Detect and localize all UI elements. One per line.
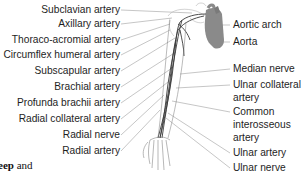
label-ulnar-artery: Ulnar artery xyxy=(233,147,286,159)
label-median-nerve: Median nerve xyxy=(233,63,295,75)
label-profunda-brachii-artery: Profunda brachii artery xyxy=(17,97,120,109)
heart-aortic-arch xyxy=(205,5,224,49)
label-radial-nerve: Radial nerve xyxy=(63,129,120,141)
body-text-fragment: eep and xyxy=(0,159,33,171)
shoulder-outline xyxy=(168,3,206,36)
label-ulnar-collateral-artery-line1: Ulnar collateral xyxy=(233,79,301,91)
label-radial-collateral-artery: Radial collateral artery xyxy=(19,113,120,125)
label-radial-artery: Radial artery xyxy=(62,145,120,157)
hand xyxy=(143,137,170,170)
label-ulnar-nerve: Ulnar nerve xyxy=(233,162,286,172)
label-axillary-artery: Axillary artery xyxy=(58,18,120,30)
label-brachial-artery: Brachial artery xyxy=(54,81,120,93)
label-common-interosseous-artery-line2: interosseous xyxy=(233,119,291,131)
body-text-bold: eep xyxy=(0,159,14,171)
label-subscapular-artery: Subscapular artery xyxy=(34,65,120,77)
label-ulnar-collateral-artery-line2: artery xyxy=(233,92,259,104)
label-subclavian-artery: Subclavian artery xyxy=(41,4,120,16)
label-common-interosseous-artery-line3: artery xyxy=(233,132,259,144)
label-circumflex-humeral-artery: Circumflex humeral artery xyxy=(3,49,120,61)
label-thoraco-acromial-artery: Thoraco-acromial artery xyxy=(12,34,120,46)
label-aorta: Aorta xyxy=(233,36,257,48)
label-common-interosseous-artery-line1: Common xyxy=(233,106,274,118)
label-aortic-arch: Aortic arch xyxy=(233,19,282,31)
body-text-rest: and xyxy=(14,159,33,171)
